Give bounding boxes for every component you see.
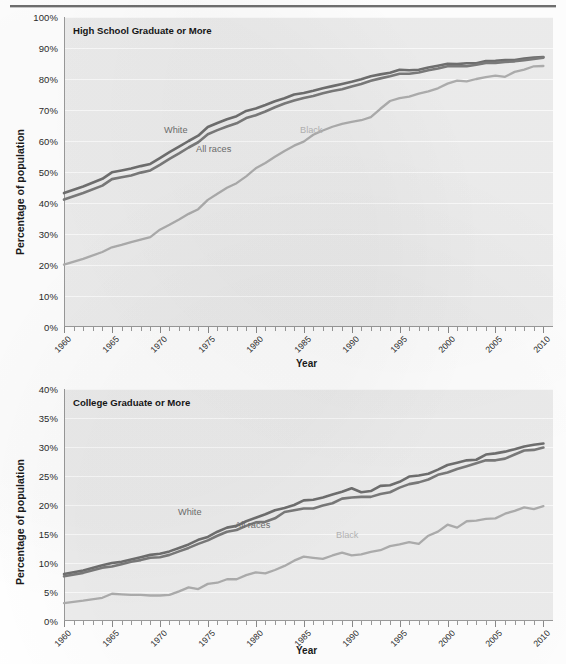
y-axis-tick-label: 30% xyxy=(0,442,58,453)
x-axis-minor-tick xyxy=(265,621,266,625)
y-axis-tick-label: 40% xyxy=(0,384,58,395)
x-axis-tick-label: 2000 xyxy=(428,628,456,656)
x-axis-minor-tick xyxy=(361,621,362,625)
plot-area-bottom: College Graduate or More White All races… xyxy=(64,389,553,621)
x-axis-minor-tick xyxy=(371,621,372,625)
x-axis-minor-tick xyxy=(122,621,123,625)
x-axis-major-tick xyxy=(400,621,401,627)
x-axis-tick-label: 1965 xyxy=(93,628,121,656)
x-axis-major-tick xyxy=(208,621,209,627)
x-axis-minor-tick xyxy=(438,621,439,625)
x-axis-minor-tick xyxy=(169,621,170,625)
x-axis-minor-tick xyxy=(246,621,247,625)
x-axis-tick-label: 1960 xyxy=(45,628,73,656)
panel-title-bottom: College Graduate or More xyxy=(73,397,190,408)
x-axis-major-tick xyxy=(495,621,496,627)
x-axis-minor-tick xyxy=(515,621,516,625)
x-axis-minor-tick xyxy=(83,621,84,625)
x-axis-minor-tick xyxy=(505,621,506,625)
series-label-black-bottom: Black xyxy=(336,530,358,540)
x-axis-major-tick xyxy=(543,621,544,627)
x-axis-minor-tick xyxy=(294,621,295,625)
x-axis-tick-label: 2005 xyxy=(476,628,504,656)
y-axis-tick-label: 5% xyxy=(0,587,58,598)
x-axis-minor-tick xyxy=(93,621,94,625)
x-axis-major-tick xyxy=(256,621,257,627)
x-axis-tick-label: 1980 xyxy=(237,628,265,656)
y-axis-tick-label: 0% xyxy=(0,616,58,627)
y-axis-tick-label: 25% xyxy=(0,471,58,482)
series-label-all-races-bottom: All races xyxy=(235,520,270,530)
x-axis-minor-tick xyxy=(323,621,324,625)
figure-page: Percentage of population High School Gra… xyxy=(0,0,566,664)
series-lines-bottom xyxy=(64,389,553,621)
x-axis-tick-label: 1990 xyxy=(332,628,360,656)
chart-college: Percentage of population College Graduat… xyxy=(0,0,566,664)
x-axis-major-tick xyxy=(64,621,65,627)
x-axis-major-tick xyxy=(304,621,305,627)
y-axis-tick-label: 20% xyxy=(0,500,58,511)
x-axis-minor-tick xyxy=(141,621,142,625)
x-axis-minor-tick xyxy=(524,621,525,625)
x-axis-minor-tick xyxy=(198,621,199,625)
x-axis-minor-tick xyxy=(131,621,132,625)
x-axis-major-tick xyxy=(112,621,113,627)
x-axis-minor-tick xyxy=(102,621,103,625)
x-axis-major-tick xyxy=(160,621,161,627)
x-axis-minor-tick xyxy=(313,621,314,625)
x-axis-minor-tick xyxy=(409,621,410,625)
x-axis-tick-label: 1970 xyxy=(141,628,169,656)
x-axis-minor-tick xyxy=(457,621,458,625)
x-axis-tick-label: 2010 xyxy=(524,628,552,656)
y-axis-tick-label: 35% xyxy=(0,413,58,424)
x-axis-minor-tick xyxy=(467,621,468,625)
series-line-black xyxy=(64,506,543,603)
x-axis-minor-tick xyxy=(476,621,477,625)
x-axis-minor-tick xyxy=(332,621,333,625)
x-axis-major-tick xyxy=(352,621,353,627)
x-axis-minor-tick xyxy=(419,621,420,625)
x-axis-minor-tick xyxy=(390,621,391,625)
x-axis-minor-tick xyxy=(342,621,343,625)
x-axis-minor-tick xyxy=(486,621,487,625)
x-axis-minor-tick xyxy=(217,621,218,625)
x-axis-minor-tick xyxy=(285,621,286,625)
x-axis-minor-tick xyxy=(428,621,429,625)
x-axis-minor-tick xyxy=(237,621,238,625)
x-axis-major-tick xyxy=(448,621,449,627)
x-axis-minor-tick xyxy=(189,621,190,625)
x-axis-minor-tick xyxy=(179,621,180,625)
x-axis-minor-tick xyxy=(534,621,535,625)
y-axis-tick-label: 15% xyxy=(0,529,58,540)
x-axis-minor-tick xyxy=(227,621,228,625)
x-axis-minor-tick xyxy=(380,621,381,625)
series-label-white-bottom: White xyxy=(178,507,202,517)
x-axis-minor-tick xyxy=(275,621,276,625)
x-axis-minor-tick xyxy=(74,621,75,625)
y-axis-tick-label: 10% xyxy=(0,558,58,569)
x-axis-tick-label: 1995 xyxy=(380,628,408,656)
x-axis-minor-tick xyxy=(150,621,151,625)
x-axis-tick-label: 1975 xyxy=(189,628,217,656)
